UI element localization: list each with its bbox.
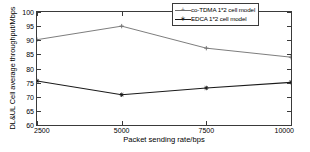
plot-inner: 6065707580859095100 25005000750010000 [37,12,291,125]
y-tick-mark [287,40,291,41]
y-axis-label: DL&UL Cell average throughput/Mbps [7,4,19,132]
y-tick-mark [37,54,41,55]
data-point-marker [289,55,291,59]
y-tick-mark [37,111,41,112]
x-tick-label: 5000 [114,127,130,134]
chart-figure: DL&UL Cell average throughput/Mbps Packe… [0,0,310,152]
legend-label-edca: EDCA 1*2 cell model [191,14,247,23]
legend-swatch-edca: ∗ [175,14,191,23]
plus-marker-icon: + [181,6,185,13]
legend-swatch-co-tdma: + [175,5,191,14]
y-tick-mark [37,97,41,98]
y-tick-mark [287,26,291,27]
x-tick-mark [291,12,292,16]
x-tick-mark [37,121,38,125]
y-tick-label: 75 [26,79,34,86]
data-point-marker [119,93,123,97]
x-axis-label: Packet sending rate/bps [36,135,292,144]
data-point-marker [119,24,123,28]
legend-label-co-tdma: co-TDMA 1*2 cell model [191,5,255,14]
legend: + co-TDMA 1*2 cell model ∗ EDCA 1*2 cell… [172,3,259,26]
x-tick-mark [122,12,123,16]
legend-entry-1: ∗ EDCA 1*2 cell model [175,14,255,23]
y-tick-mark [37,125,41,126]
star-marker-icon: ∗ [180,15,186,22]
data-point-marker [204,46,208,50]
y-tick-mark [287,83,291,84]
y-tick-mark [37,69,41,70]
plot-area: 6065707580859095100 25005000750010000 [36,11,292,126]
x-tick-mark [37,12,38,16]
x-tick-mark [291,121,292,125]
x-tick-mark [206,121,207,125]
y-tick-label: 60 [26,122,34,129]
x-tick-label: 7500 [199,127,215,134]
series-line-1 [37,81,291,95]
y-tick-label: 85 [26,51,34,58]
y-tick-mark [287,111,291,112]
series-lines [37,12,291,125]
x-tick-label: 2500 [34,127,50,134]
y-tick-label: 95 [26,23,34,30]
y-tick-label: 100 [22,9,34,16]
data-point-marker [204,86,208,90]
y-tick-mark [37,83,41,84]
y-tick-mark [287,69,291,70]
y-tick-mark [287,125,291,126]
y-tick-label: 80 [26,65,34,72]
y-tick-mark [287,97,291,98]
y-tick-label: 70 [26,93,34,100]
legend-entry-0: + co-TDMA 1*2 cell model [175,5,255,14]
x-tick-mark [122,121,123,125]
y-tick-mark [37,40,41,41]
series-line-0 [37,26,291,57]
y-tick-mark [287,54,291,55]
y-tick-mark [37,26,41,27]
y-tick-label: 90 [26,37,34,44]
x-tick-label: 10000 [275,127,294,134]
y-tick-label: 65 [26,107,34,114]
